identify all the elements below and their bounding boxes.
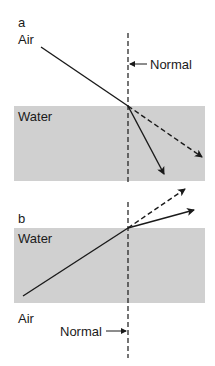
refraction-diagram: a Air Water Normal b Water Air Normal [0,0,215,366]
panel-a-bottom-medium-label: Water [18,109,53,124]
panel-a-normal-label: Normal [150,57,192,72]
panel-a-letter: a [18,15,26,30]
panel-a: a Air Water Normal [14,15,205,183]
panel-b-top-medium-label: Water [18,231,53,246]
panel-a-top-medium-label: Air [18,32,35,47]
dashed-continuation-arrow-icon [128,189,185,228]
refracted-ray-arrow-icon [128,210,194,228]
incident-ray [41,47,128,106]
panel-b-normal-label: Normal [60,324,102,339]
panel-b-letter: b [18,211,25,226]
panel-b: b Water Air Normal [14,189,205,358]
panel-b-bottom-medium-label: Air [18,311,35,326]
